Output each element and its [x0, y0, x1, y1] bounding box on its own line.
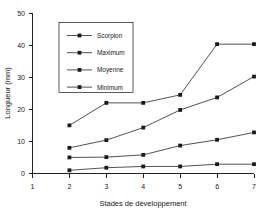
x-tick-label: 2 — [67, 183, 71, 190]
x-tick-label: 7 — [252, 183, 256, 190]
data-point-marker — [68, 146, 72, 150]
chart-figure: 01020304050 1234567 Stades de développem… — [0, 0, 262, 214]
data-point-marker — [141, 153, 145, 157]
x-tick-label: 4 — [141, 183, 145, 190]
data-point-marker — [252, 162, 256, 166]
data-point-marker — [215, 138, 219, 142]
y-tick-label: 50 — [17, 10, 25, 17]
data-point-marker — [252, 75, 256, 79]
data-point-marker — [215, 42, 219, 46]
legend-marker-maximum — [78, 51, 82, 55]
y-tick-label: 30 — [17, 74, 25, 81]
data-point-marker — [68, 123, 72, 127]
data-point-marker — [178, 165, 182, 169]
y-tick-label: 20 — [17, 106, 25, 113]
legend-label-scorpion: Scorpion — [97, 32, 123, 40]
data-point-marker — [141, 101, 145, 105]
data-point-marker — [104, 166, 108, 170]
data-point-marker — [68, 156, 72, 160]
x-tick-label: 5 — [178, 183, 182, 190]
y-tick-label: 10 — [17, 138, 25, 145]
data-point-marker — [252, 42, 256, 46]
legend-marker-moyenne — [78, 68, 82, 72]
data-point-marker — [104, 101, 108, 105]
data-point-marker — [215, 162, 219, 166]
x-axis-title: Stades de développement — [99, 199, 187, 208]
legend-label-moyenne: Moyenne — [97, 66, 124, 74]
data-point-marker — [141, 165, 145, 169]
line-chart: 01020304050 1234567 Stades de développem… — [0, 0, 262, 214]
data-point-marker — [68, 168, 72, 172]
chart-legend: ScorpionMaximumMoyenneMinimum — [59, 23, 133, 93]
x-tick-label: 1 — [31, 183, 35, 190]
data-point-marker — [178, 93, 182, 97]
legend-label-maximum: Maximum — [97, 49, 125, 56]
data-point-marker — [178, 108, 182, 112]
legend-marker-minimum — [78, 85, 82, 89]
y-tick-label: 40 — [17, 42, 25, 49]
legend-label-minimum: Minimum — [97, 84, 123, 91]
x-tick-label: 3 — [104, 183, 108, 190]
data-point-marker — [104, 155, 108, 159]
y-axis-title: Longueur (mm) — [3, 67, 12, 119]
x-tick-label: 6 — [215, 183, 219, 190]
data-point-marker — [252, 131, 256, 135]
data-point-marker — [178, 144, 182, 148]
legend-marker-scorpion — [78, 34, 82, 38]
data-point-marker — [215, 96, 219, 100]
data-point-marker — [141, 126, 145, 130]
data-point-marker — [104, 138, 108, 142]
y-tick-label: 0 — [21, 170, 25, 177]
